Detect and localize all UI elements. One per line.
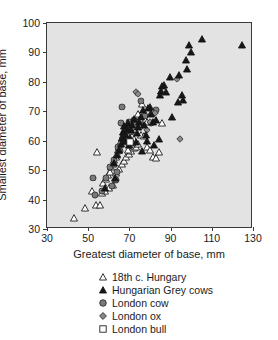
data-point-filled-triangle <box>127 126 135 134</box>
data-point-open-triangle <box>118 160 126 168</box>
y-tick <box>43 141 47 142</box>
data-point-filled-diamond <box>173 75 181 83</box>
data-point-open-triangle <box>122 153 130 161</box>
data-point-open-triangle <box>130 144 138 152</box>
data-point-filled-diamond <box>143 127 151 135</box>
y-tick <box>43 111 47 112</box>
data-point-filled-triangle <box>238 41 246 49</box>
y-tick-label: 30 <box>28 224 40 235</box>
data-point-filled-triangle <box>118 134 126 142</box>
data-point-open-triangle <box>124 146 132 154</box>
data-point-filled-triangle <box>132 138 140 146</box>
data-point-filled-triangle <box>128 121 136 129</box>
data-point-filled-triangle <box>144 104 152 112</box>
data-point-filled-diamond <box>134 90 142 98</box>
legend-item-label: London ox <box>112 310 161 322</box>
x-tick <box>171 227 172 231</box>
data-point-open-triangle <box>138 115 146 123</box>
data-point-filled-diamond <box>132 88 140 96</box>
data-point-filled-circle <box>130 116 138 124</box>
data-point-filled-triangle <box>113 151 121 159</box>
data-point-filled-triangle <box>121 137 129 145</box>
data-point-filled-circle <box>132 121 140 129</box>
data-point-filled-triangle <box>162 88 170 96</box>
data-point-filled-triangle <box>179 96 187 104</box>
data-point-open-triangle <box>117 137 125 145</box>
data-point-filled-triangle <box>123 125 131 133</box>
data-point-filled-triangle <box>178 91 186 99</box>
data-point-open-triangle <box>127 147 135 155</box>
data-point-open-triangle <box>112 169 120 177</box>
data-point-filled-circle <box>106 163 114 171</box>
data-point-filled-triangle <box>142 131 150 139</box>
data-point-filled-triangle <box>120 122 128 130</box>
data-point-filled-triangle <box>147 110 155 118</box>
chart-legend: 18th c. HungaryHungarian Grey cowsLondon… <box>96 271 213 335</box>
data-point-filled-circle <box>121 130 129 138</box>
y-tick-label: 80 <box>28 77 40 88</box>
data-point-open-triangle <box>130 135 138 143</box>
data-point-open-triangle <box>134 110 142 118</box>
data-point-filled-circle <box>152 106 160 114</box>
legend-item[interactable]: London ox <box>96 310 213 322</box>
data-point-filled-triangle <box>130 115 138 123</box>
data-point-filled-diamond <box>176 135 184 143</box>
data-point-open-triangle <box>118 134 126 142</box>
data-point-open-triangle <box>110 156 118 164</box>
x-tick-label: 90 <box>165 233 177 244</box>
data-point-open-triangle <box>121 126 129 134</box>
data-point-open-triangle <box>134 140 142 148</box>
y-tick <box>43 23 47 24</box>
data-point-filled-circle <box>90 174 98 182</box>
data-point-filled-triangle <box>135 118 143 126</box>
data-point-filled-circle <box>110 156 118 164</box>
data-point-filled-circle <box>102 174 110 182</box>
data-point-open-triangle <box>120 129 128 137</box>
data-point-filled-triangle <box>139 106 147 114</box>
data-point-open-triangle <box>120 157 128 165</box>
data-point-open-triangle <box>112 153 120 161</box>
data-point-filled-circle <box>141 112 149 120</box>
data-point-open-square <box>126 138 134 146</box>
data-point-filled-diamond <box>146 118 154 126</box>
data-point-open-triangle <box>88 187 96 195</box>
data-point-filled-triangle <box>183 65 191 73</box>
legend-item[interactable]: 18th c. Hungary <box>96 271 213 283</box>
data-point-filled-circle <box>114 143 122 151</box>
data-point-open-triangle <box>93 148 101 156</box>
legend-item-label: 18th c. Hungary <box>112 271 186 283</box>
data-point-open-triangle <box>122 123 130 131</box>
data-point-open-triangle <box>70 214 78 222</box>
y-tick-label: 90 <box>28 47 40 58</box>
data-point-filled-circle <box>128 128 136 136</box>
data-point-filled-circle <box>117 119 125 127</box>
data-point-open-triangle <box>131 119 139 127</box>
legend-item[interactable]: London bull <box>96 323 213 335</box>
data-point-filled-triangle <box>133 129 141 137</box>
open-triangle-icon <box>96 271 109 283</box>
legend-item[interactable]: London cow <box>96 297 213 309</box>
data-point-filled-circle <box>113 168 121 176</box>
data-point-open-triangle <box>98 189 106 197</box>
x-tick <box>47 227 48 231</box>
data-point-open-triangle <box>138 100 146 108</box>
data-point-filled-triangle <box>152 116 160 124</box>
data-point-open-triangle <box>106 168 114 176</box>
data-point-open-triangle <box>104 171 112 179</box>
data-point-filled-triangle <box>149 118 157 126</box>
y-tick-label: 50 <box>28 165 40 176</box>
data-point-open-triangle <box>101 187 109 195</box>
data-point-filled-circle <box>124 125 132 133</box>
data-point-filled-triangle <box>124 119 132 127</box>
data-point-filled-triangle <box>101 184 109 192</box>
data-point-filled-triangle <box>125 141 133 149</box>
data-point-filled-triangle <box>158 82 166 90</box>
data-point-filled-triangle <box>175 71 183 79</box>
legend-item-label: Hungarian Grey cows <box>112 284 213 296</box>
y-tick-label: 60 <box>28 135 40 146</box>
data-point-open-triangle <box>149 153 157 161</box>
legend-item[interactable]: Hungarian Grey cows <box>96 284 213 296</box>
data-point-open-triangle <box>109 160 117 168</box>
filled-circle-icon <box>96 297 109 309</box>
x-tick-label: 50 <box>82 233 94 244</box>
